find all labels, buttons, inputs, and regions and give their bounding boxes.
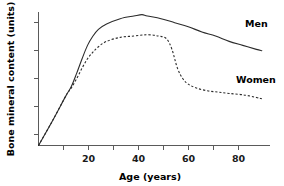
x-tick-label-40: 40 [132, 153, 146, 164]
y-axis-ticks [34, 23, 39, 135]
x-tick-label-20: 20 [82, 153, 96, 164]
x-tick-label-60: 60 [182, 153, 196, 164]
x-axis-title: Age (years) [119, 171, 181, 182]
bone-mineral-content-chart: 20 40 60 80 Age (years) Bone mineral con… [0, 0, 284, 186]
x-axis-ticks [64, 146, 239, 151]
chart-canvas: 20 40 60 80 Age (years) Bone mineral con… [0, 0, 284, 186]
series-label-men: Men [245, 18, 268, 29]
series-label-women: Women [236, 74, 276, 85]
x-tick-label-80: 80 [232, 153, 246, 164]
y-axis-title: Bone mineral content (units) [5, 2, 16, 156]
series-line-women [39, 35, 262, 146]
